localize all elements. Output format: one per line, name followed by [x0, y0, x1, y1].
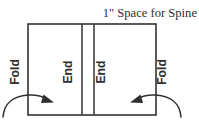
end-label-right: End	[94, 60, 108, 83]
end-label-left: End	[61, 60, 75, 83]
arrow-head-left	[130, 95, 143, 104]
fold-label-right: Fold	[155, 59, 169, 85]
fold-label-left: Fold	[8, 59, 22, 85]
diagram-canvas: 1" Space for Spine Fold End End Fold	[0, 0, 199, 125]
spine-space-title: 1" Space for Spine	[103, 6, 198, 20]
book-cover-layout-diagram: 1" Space for Spine Fold End End Fold	[0, 0, 199, 125]
arrow-head-right	[41, 95, 54, 104]
